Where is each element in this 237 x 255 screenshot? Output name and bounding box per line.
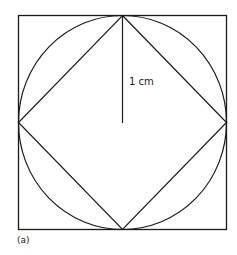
radius-label: 1 cm [129,76,154,87]
figure-caption: (a) [17,235,30,245]
circle-square-diagram [0,0,237,255]
